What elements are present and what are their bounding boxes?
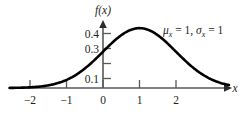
- chart-svg: x −2 −1 0 1 2 f(x): [0, 0, 246, 115]
- parameter-annotation: μx = 1, σx = 1: [162, 24, 224, 39]
- y-tick-label: 0.3: [85, 43, 100, 55]
- x-tick-labels: −2 −1 0 1 2: [24, 94, 179, 106]
- normal-pdf-curve: [10, 28, 229, 88]
- y-tick-marks: [103, 34, 111, 79]
- y-tick-label: 0.1: [85, 73, 100, 85]
- sigma-equals-value: = 1: [205, 24, 223, 36]
- y-axis-arrowhead: [99, 20, 107, 28]
- x-axis: x: [8, 82, 238, 94]
- x-tick-label: 2: [173, 94, 179, 106]
- y-tick-label: 0.4: [85, 28, 100, 40]
- x-tick-label: 0: [100, 94, 106, 106]
- mu-equals-value: = 1,: [172, 24, 196, 37]
- x-tick-label: 1: [137, 94, 143, 106]
- normal-distribution-figure: x −2 −1 0 1 2 f(x): [0, 0, 246, 115]
- x-tick-label: −2: [24, 94, 36, 106]
- y-axis-label: f(x): [95, 4, 111, 17]
- x-axis-label: x: [231, 82, 238, 94]
- x-tick-label: −1: [60, 94, 72, 106]
